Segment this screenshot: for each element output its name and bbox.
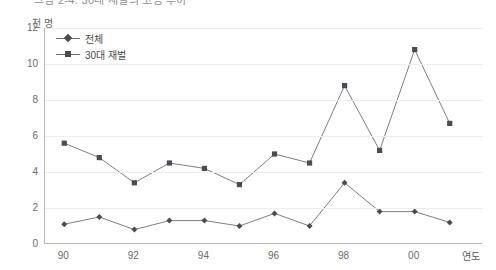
series-chaebol <box>62 47 453 187</box>
data-point <box>61 221 67 227</box>
data-point <box>412 47 417 52</box>
series-total <box>61 180 452 233</box>
legend-item-1: 30대 재벌 <box>56 47 126 61</box>
gridline <box>45 64 483 65</box>
y-axis-tick: 12 <box>16 22 38 33</box>
legend-item-0: 전체 <box>56 31 126 45</box>
data-point <box>307 160 312 165</box>
data-point <box>131 227 137 233</box>
data-point <box>201 218 207 224</box>
chart-legend: 전체 30대 재벌 <box>56 31 126 63</box>
data-point <box>62 141 67 146</box>
data-point <box>447 219 453 225</box>
legend-label-0: 전체 <box>85 31 103 46</box>
series-line <box>64 50 449 185</box>
gridline <box>45 172 483 173</box>
data-point <box>237 182 242 187</box>
data-point <box>236 223 242 229</box>
data-point <box>412 209 418 215</box>
y-axis-tick: 4 <box>16 166 38 177</box>
gridline <box>45 136 483 137</box>
gridline <box>45 208 483 209</box>
data-point <box>272 151 277 156</box>
data-point <box>132 180 137 185</box>
y-axis-tick: 6 <box>16 130 38 141</box>
x-axis-title: 연도 <box>462 248 480 263</box>
series-line <box>64 183 449 230</box>
data-point <box>377 148 382 153</box>
gridline <box>45 28 483 29</box>
x-axis-tick: 98 <box>338 250 349 261</box>
data-point <box>272 210 278 216</box>
y-axis-tick: 8 <box>16 94 38 105</box>
x-axis-tick: 94 <box>198 250 209 261</box>
data-point <box>96 214 102 220</box>
x-axis-tick: 92 <box>128 250 139 261</box>
y-axis-tick: 2 <box>16 202 38 213</box>
x-axis-tick: 90 <box>58 250 69 261</box>
data-point <box>342 83 347 88</box>
data-point <box>167 160 172 165</box>
data-point <box>447 121 452 126</box>
legend-marker-square-icon <box>56 49 80 59</box>
legend-label-1: 30대 재벌 <box>85 47 126 62</box>
y-axis-tick: 0 <box>16 238 38 249</box>
data-point <box>166 218 172 224</box>
x-axis-tick: 96 <box>268 250 279 261</box>
y-axis-tick: 10 <box>16 58 38 69</box>
gridline <box>45 100 483 101</box>
x-axis-tick: 00 <box>408 250 419 261</box>
data-point <box>97 155 102 160</box>
data-point <box>202 166 207 171</box>
legend-marker-diamond-icon <box>56 33 80 43</box>
